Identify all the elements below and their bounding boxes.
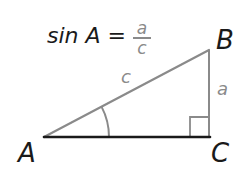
angle-arc-a (102, 107, 110, 137)
hypotenuse-line (44, 50, 209, 137)
right-angle-marker (190, 117, 209, 137)
side-label-a: a (217, 80, 228, 98)
sine-fraction: a c (133, 20, 151, 56)
fraction-numerator: a (133, 20, 151, 36)
side-label-c: c (121, 68, 131, 86)
sine-formula-lhs: sin A = (47, 25, 126, 47)
right-triangle-diagram: sin A = a c B A C c a (0, 0, 248, 172)
vertex-label-a: A (18, 140, 36, 166)
vertex-label-b: B (216, 27, 234, 53)
fraction-denominator: c (133, 40, 151, 56)
vertex-label-c: C (211, 140, 229, 166)
